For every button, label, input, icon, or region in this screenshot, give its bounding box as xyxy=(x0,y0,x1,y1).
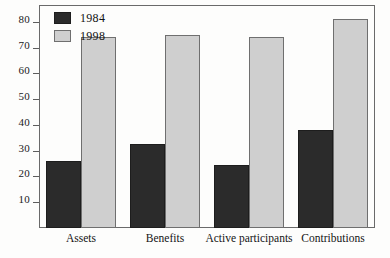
legend-item-label: 1984 xyxy=(80,12,105,24)
x-axis-label-benefits: Benefits xyxy=(146,231,184,245)
y-axis-tick-label: 60 xyxy=(19,65,30,76)
x-axis-label-assets: Assets xyxy=(66,231,96,245)
legend-item-1984[interactable]: 1984 xyxy=(54,11,105,25)
bar-1984-contributions[interactable] xyxy=(298,130,333,228)
x-axis-label-active-participants: Active participants xyxy=(205,231,292,245)
y-axis-tick-label: 50 xyxy=(19,91,30,102)
bar-group-active-participants xyxy=(207,5,291,228)
y-axis-tick-label: 80 xyxy=(19,14,30,25)
bar-1998-assets[interactable] xyxy=(81,37,116,228)
x-axis-label-contributions: Contributions xyxy=(301,231,364,245)
bar-1984-assets[interactable] xyxy=(46,161,81,228)
legend-item-label: 1998 xyxy=(80,30,105,42)
y-axis-tick-label: 40 xyxy=(19,117,30,128)
bar-chart: 1020304050607080 AssetsBenefitsActive pa… xyxy=(0,0,390,258)
x-axis-category-labels: AssetsBenefitsActive participantsContrib… xyxy=(39,231,375,255)
bar-1998-active-participants[interactable] xyxy=(249,37,284,228)
bar-group-benefits xyxy=(123,5,207,228)
y-axis-tick-label: 20 xyxy=(19,168,30,179)
chart-legend: 19841998 xyxy=(54,11,105,43)
y-axis-tick-label: 10 xyxy=(19,194,30,205)
bar-1984-benefits[interactable] xyxy=(130,144,165,228)
light-swatch xyxy=(54,30,71,42)
y-axis-tick-label: 70 xyxy=(19,40,30,51)
bar-group-contributions xyxy=(291,5,375,228)
bar-1998-benefits[interactable] xyxy=(165,35,200,228)
dark-swatch xyxy=(54,12,71,24)
y-axis-tick-label: 30 xyxy=(19,143,30,154)
bar-1984-active-participants[interactable] xyxy=(214,165,249,228)
bar-1998-contributions[interactable] xyxy=(333,19,368,228)
y-axis: 1020304050607080 xyxy=(0,0,39,258)
legend-item-1998[interactable]: 1998 xyxy=(54,29,105,43)
